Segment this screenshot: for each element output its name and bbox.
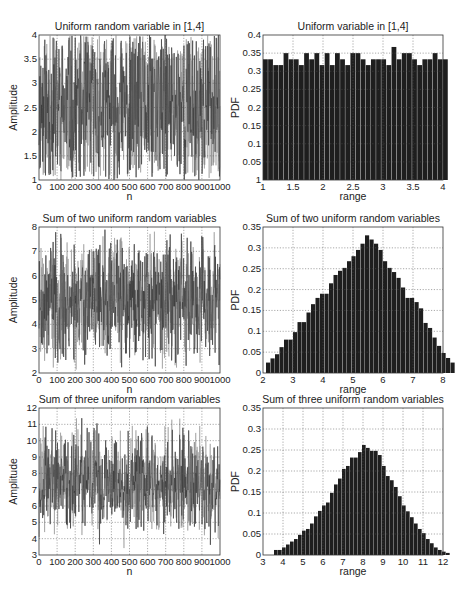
x-tick-label: 6 [320,556,325,567]
y-tick-label: 0.3 [248,242,261,253]
y-tick-label: 0.05 [243,528,262,539]
y-tick-label: 0.15 [243,120,262,131]
y-tick-label: 0.2 [248,102,261,113]
histogram-bar [428,328,432,373]
histogram-bar [361,244,365,373]
histogram-bar [311,304,315,373]
y-tick-label: 1 [256,174,261,185]
histogram-bar [347,261,351,373]
histogram-bar [350,458,354,555]
y-tick-labels: 00.050.10.150.20.250.30.35 [243,402,262,560]
y-tick-label: 2.5 [24,102,37,113]
x-tick-label: 10 [398,556,409,567]
histogram-bar [320,294,324,373]
y-tick-label: 9 [32,451,37,462]
y-tick-label: 0 [256,367,261,378]
x-tick-label: 600 [140,556,156,567]
histogram-bar [442,353,446,373]
histogram-bar [282,547,286,555]
histogram-bar [406,298,410,373]
y-tick-label: 4 [32,533,37,544]
histogram-bar [290,542,294,555]
histogram-bar [424,323,428,373]
x-tick-label: 1000 [209,556,230,567]
histogram-bar [352,256,356,373]
x-tick-label: 0 [36,374,41,385]
x-tick-label: 3 [260,556,265,567]
histogram-bar [388,268,392,373]
y-tick-label: 3 [32,343,37,354]
figure-canvas: 0100200300400500600700800900100011.522.5… [0,0,461,590]
y-axis-label: PDF [229,471,241,492]
histogram-bar [383,261,387,373]
y-tick-label: 0.35 [243,221,262,232]
histogram-bar [410,517,414,555]
subplot-uniform-time: 0100200300400500600700800900100011.522.5… [7,20,231,202]
histogram-bar [280,347,284,373]
y-tick-label: 1.5 [24,150,37,161]
histogram-bar [386,65,391,180]
x-tick-label: 900 [194,556,210,567]
histogram-bar [374,244,378,373]
x-tick-label: 3.5 [406,181,419,192]
x-axis-label: n [127,565,133,577]
x-tick-label: 700 [158,556,174,567]
x-tick-label: 3 [380,181,385,192]
x-tick-label: 200 [67,556,83,567]
histogram-bar [316,298,320,373]
histogram-bar [325,53,330,180]
y-tick-label: 7 [32,245,37,256]
y-tick-labels: 11.522.533.54 [24,29,37,185]
histogram-bar [418,529,422,555]
y-tick-label: 1 [32,174,37,185]
histogram-bar [302,322,306,373]
x-tick-label: 100 [49,374,65,385]
histogram-bar [334,484,338,555]
subplot-sum3-time: 0100200300400500600700800900100034567891… [7,393,231,577]
histogram-bar [289,340,293,373]
histogram-bar [433,53,438,180]
y-tick-label: 0.3 [248,65,261,76]
histogram-bar [414,524,418,556]
x-tick-label: 4 [280,556,285,567]
x-tick-labels: 01002003004005006007008009001000 [36,181,230,192]
histogram-bar [330,493,334,555]
histogram-bar [442,552,446,555]
y-tick-labels: 00.050.10.150.20.250.30.35 [243,221,262,378]
x-tick-label: 300 [85,181,101,192]
histogram-bar [358,452,362,555]
subplot-sum2-pdf: 234567800.050.10.150.20.250.30.35Sum of … [229,212,455,395]
x-tick-label: 0 [36,181,41,192]
histogram-bar [451,363,455,373]
x-tick-label: 200 [67,181,83,192]
histogram-bar [286,545,290,556]
histogram-bar [366,65,371,180]
histogram-bar [386,476,390,555]
y-tick-label: 3 [32,549,37,560]
x-tick-labels: 01002003004005006007008009001000 [36,556,230,567]
histogram-bar [394,487,398,555]
histogram-bar [273,65,278,180]
histogram-bar [382,466,386,555]
histogram-bar [278,65,283,180]
x-tick-label: 1 [260,181,265,192]
histogram-bar [294,539,298,555]
y-axis-label: Amplitude [7,277,19,324]
histogram-bar [302,531,306,555]
chart-title: Uniform variable in [1,4] [298,20,409,32]
y-tick-label: 0.35 [243,402,262,413]
x-tick-label: 800 [176,181,192,192]
y-tick-labels: 2345678 [32,221,37,378]
y-tick-label: 0.1 [248,325,261,336]
x-tick-label: 100 [49,556,65,567]
y-tick-label: 0.25 [243,444,262,455]
y-axis-label: PDF [229,97,241,118]
histogram-bar [437,346,441,373]
histogram-bar [356,53,361,180]
chart-title: Sum of three uniform random variables [262,393,444,405]
histogram-bar [329,283,333,373]
histogram-bar [379,250,383,373]
y-tick-label: 2 [32,367,37,378]
histogram-bar [434,547,438,555]
y-axis-label: Amplitude [7,458,19,505]
